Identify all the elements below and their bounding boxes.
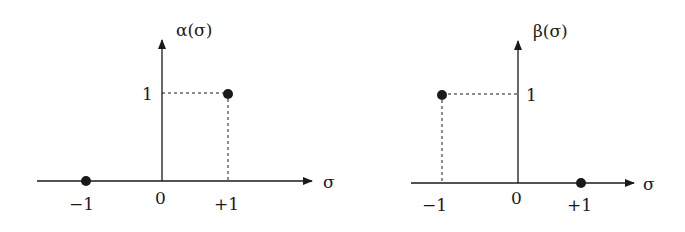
x-axis-label: σ <box>643 174 655 194</box>
point-minus-one <box>81 176 91 186</box>
tick-zero: 0 <box>155 188 166 208</box>
tick-plus-one: +1 <box>567 195 592 215</box>
diagram-canvas: α(σ) σ 1 0 −1 +1 β(σ) σ 1 0 −1 +1 <box>0 0 685 232</box>
point-plus-one <box>223 89 233 99</box>
y-axis-label: β(σ) <box>533 21 568 41</box>
x-axis-label: σ <box>323 172 335 192</box>
tick-minus-one: −1 <box>422 195 447 215</box>
point-plus-one <box>576 178 586 188</box>
tick-one: 1 <box>142 84 153 104</box>
tick-minus-one: −1 <box>69 194 94 214</box>
tick-zero: 0 <box>511 188 522 208</box>
tick-one: 1 <box>526 85 537 105</box>
tick-plus-one: +1 <box>214 194 239 214</box>
point-minus-one <box>437 90 447 100</box>
beta-plot: β(σ) σ 1 0 −1 +1 <box>411 21 655 215</box>
alpha-plot: α(σ) σ 1 0 −1 +1 <box>37 20 335 214</box>
y-axis-label: α(σ) <box>176 20 212 40</box>
